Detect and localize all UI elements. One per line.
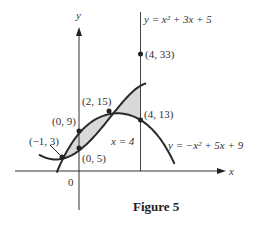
point-2-15 xyxy=(107,109,112,114)
x-axis-label: x xyxy=(228,165,234,177)
x-axis-arrow-icon xyxy=(217,168,226,174)
label-point-4-13: (4, 13) xyxy=(144,108,174,121)
lower-curve-label: y = −x² + 5x + 9 xyxy=(167,139,244,151)
origin-label: 0 xyxy=(68,176,74,188)
point-0-5 xyxy=(77,146,82,151)
y-axis-arrow-icon xyxy=(76,27,82,36)
label-point-m1-3: (−1, 3) xyxy=(29,135,59,148)
label-point-4-33: (4, 33) xyxy=(145,48,175,61)
figure-5-graph: y x 0 y = x² + 3x + 5 y = −x² + 5x + 9 x… xyxy=(0,0,267,226)
figure-caption: Figure 5 xyxy=(133,199,180,214)
point-0-9 xyxy=(77,129,82,134)
label-point-0-9: (0, 9) xyxy=(52,115,76,128)
upper-curve-label: y = x² + 3x + 5 xyxy=(143,13,212,25)
label-point-2-15: (2, 15) xyxy=(82,95,112,108)
point-4-33 xyxy=(138,52,143,57)
vline-label: x = 4 xyxy=(110,135,135,147)
point-4-13 xyxy=(138,118,143,123)
y-axis-label: y xyxy=(75,9,81,21)
label-point-0-5: (0, 5) xyxy=(82,152,106,165)
point-m1-3 xyxy=(60,155,65,160)
